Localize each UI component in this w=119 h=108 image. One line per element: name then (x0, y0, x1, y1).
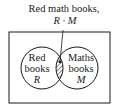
pointer-line (60, 30, 63, 62)
annotation-line2: R · M (52, 15, 77, 26)
set-r-label-line1: Red (29, 52, 47, 63)
set-m-symbol: M (76, 74, 87, 85)
set-m-label-line2: books (68, 63, 93, 74)
annotation-line1: Red math books, (29, 3, 100, 14)
set-m-label-line1: Maths (68, 52, 94, 63)
pointer-dot (59, 61, 62, 64)
set-r-label-line2: books (24, 63, 49, 74)
venn-diagram: Red math books, R · M Red books R Maths … (0, 0, 119, 108)
set-r-symbol: R (33, 74, 41, 85)
